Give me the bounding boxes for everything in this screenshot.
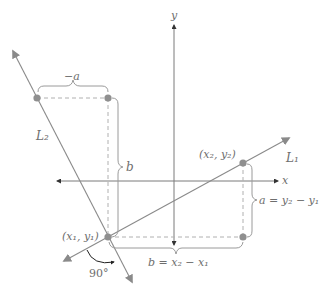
x-axis-label: x bbox=[282, 174, 289, 187]
l2-label: L₂ bbox=[35, 129, 49, 143]
b-equation-label: b = x₂ − x₁ bbox=[148, 256, 209, 269]
l1-label: L₁ bbox=[285, 151, 299, 165]
point-p1 bbox=[104, 233, 111, 240]
y-axis-label: y bbox=[170, 9, 178, 22]
points bbox=[33, 94, 246, 240]
dashed-guides bbox=[37, 98, 243, 237]
p1-label: (x₁, y₁) bbox=[62, 230, 99, 243]
point-p2 bbox=[239, 159, 246, 166]
point-top-right bbox=[104, 94, 111, 101]
brace-b bbox=[112, 98, 123, 237]
point-corner bbox=[239, 233, 246, 240]
brace-a bbox=[247, 164, 257, 237]
perpendicular-lines-diagram: x y L₂ L₁ −a b a = y₂ − y₁ b = x₂ − x₁ bbox=[0, 0, 325, 289]
a-equation-label: a = y₂ − y₁ bbox=[259, 194, 319, 207]
brace-b-bottom bbox=[109, 242, 243, 254]
y-axis: y bbox=[170, 9, 178, 245]
p2-label: (x₂, y₂) bbox=[199, 148, 236, 161]
right-angle-indicator: 90° bbox=[87, 250, 114, 280]
braces bbox=[38, 80, 257, 254]
b-label: b bbox=[126, 160, 134, 174]
angle-label: 90° bbox=[89, 267, 109, 280]
neg-a-label: −a bbox=[64, 70, 80, 83]
point-top-left bbox=[33, 94, 40, 101]
x-axis: x bbox=[57, 174, 289, 187]
